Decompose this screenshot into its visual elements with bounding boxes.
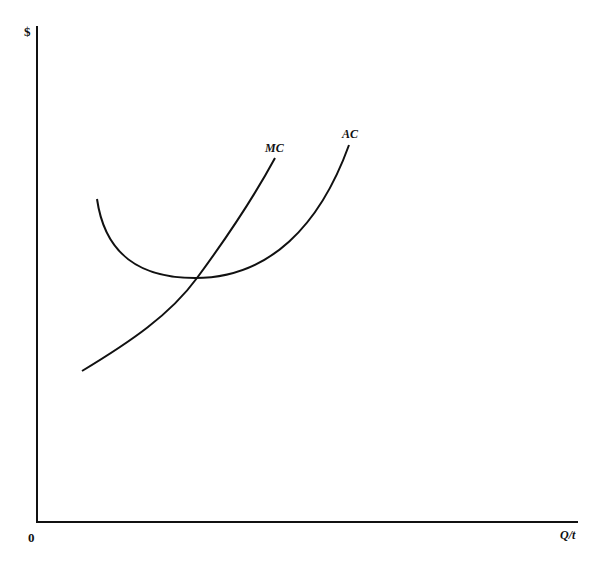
cost-curves-diagram: $ 0 Q/t MC AC [0, 0, 602, 565]
mc-curve [82, 158, 275, 371]
y-axis-label: $ [24, 24, 31, 39]
mc-curve-label: MC [264, 141, 285, 155]
ac-curve-label: AC [341, 127, 359, 141]
x-axis-label: Q/t [560, 528, 576, 542]
ac-curve [97, 145, 349, 278]
origin-label: 0 [28, 530, 35, 545]
